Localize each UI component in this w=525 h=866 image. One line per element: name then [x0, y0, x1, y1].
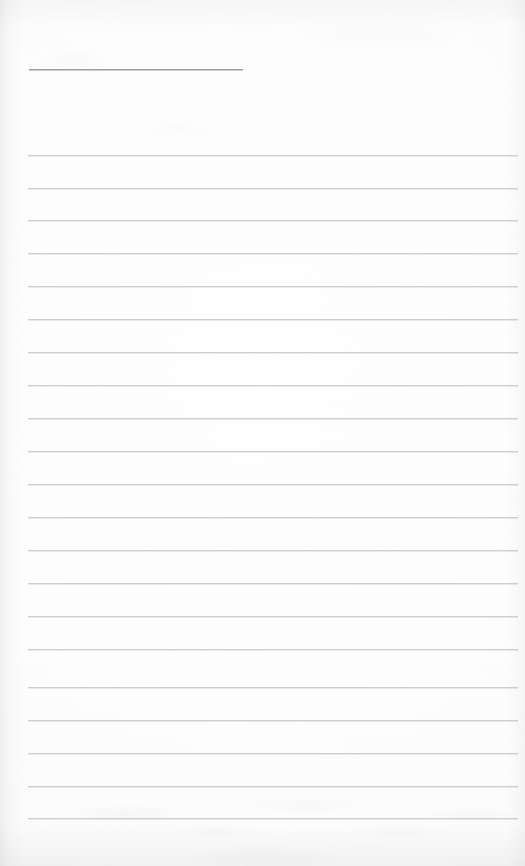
ruled-line-17: [28, 687, 518, 688]
ruled-line-2: [28, 188, 518, 189]
ruled-line-21: [28, 818, 518, 819]
ruled-line-12: [28, 517, 518, 518]
ruled-line-7: [28, 352, 518, 353]
ruled-line-19: [28, 753, 518, 754]
ruled-line-3: [28, 220, 518, 221]
header-rule: [29, 69, 243, 70]
ruled-line-15: [28, 616, 518, 617]
ruled-line-5: [28, 286, 518, 287]
ruled-line-13: [28, 550, 518, 551]
paper-background: [0, 0, 525, 866]
ruled-line-10: [28, 451, 518, 452]
ruled-line-8: [28, 385, 518, 386]
notepad-page: [0, 0, 525, 866]
ruled-line-11: [28, 484, 518, 485]
ruled-line-18: [28, 720, 518, 721]
ruled-line-20: [28, 786, 518, 787]
ruled-line-16: [28, 649, 518, 650]
ruled-line-4: [28, 253, 518, 254]
ruled-line-6: [28, 319, 518, 320]
ruled-line-14: [28, 583, 518, 584]
ruled-line-9: [28, 418, 518, 419]
ruled-line-1: [28, 155, 518, 156]
